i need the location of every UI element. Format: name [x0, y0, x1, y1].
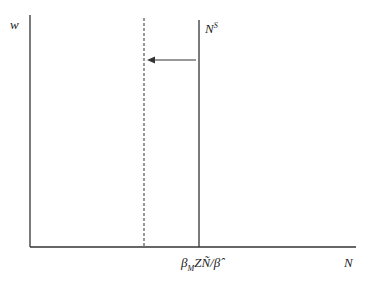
x-tick-label: βMZÑ/β̂ [181, 256, 220, 273]
arrow-head-icon [147, 57, 155, 64]
x-axis-label: N [344, 256, 353, 269]
y-axis-label: w [10, 18, 19, 31]
diagram-canvas [0, 0, 371, 282]
supply-curve-label: NS [205, 22, 218, 35]
